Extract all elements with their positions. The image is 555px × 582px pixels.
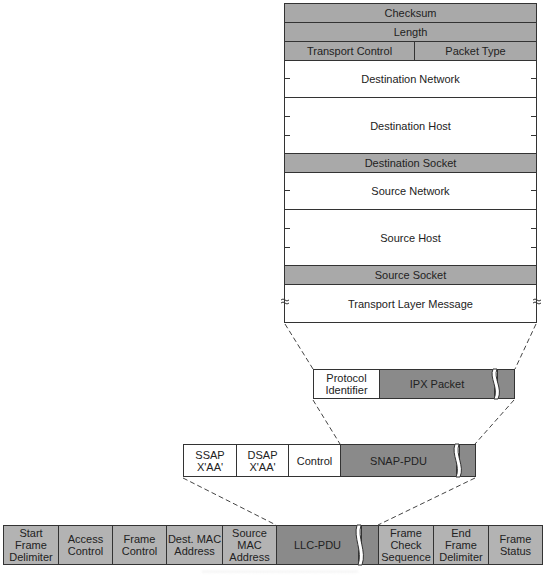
connector-lines (0, 0, 555, 582)
figure-caption-illegible: ────────────────────── (60, 566, 500, 577)
